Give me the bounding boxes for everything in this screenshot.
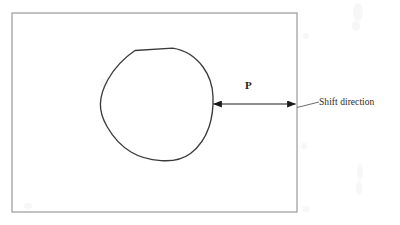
scan-artifact-group	[24, 3, 363, 212]
figure-container: P Shift direction	[0, 0, 400, 225]
outer-rectangle	[12, 13, 297, 212]
callout-leader-line	[297, 102, 319, 108]
irregular-region-outline	[100, 48, 213, 161]
diagram-canvas	[0, 0, 400, 225]
